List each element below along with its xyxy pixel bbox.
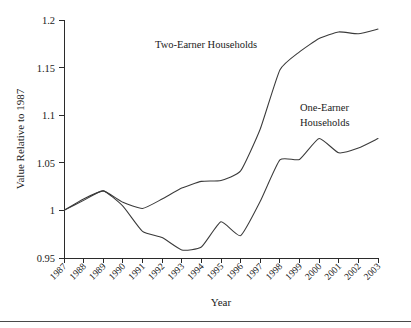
x-tick-label: 1989 bbox=[87, 261, 108, 282]
chart-svg: 0.95 1 1.05 1.1 1.15 1.2 bbox=[0, 0, 411, 328]
x-tick-label: 1995 bbox=[205, 261, 226, 282]
y-tick-label: 1.2 bbox=[42, 15, 55, 26]
x-tick-label: 2001 bbox=[323, 261, 344, 282]
x-tick-label: 1999 bbox=[283, 261, 304, 282]
x-tick-label: 1987 bbox=[48, 261, 69, 282]
x-tick-label: 1992 bbox=[146, 261, 167, 282]
y-tick-marks bbox=[59, 20, 64, 258]
annotation-one-earner-line2: Households bbox=[300, 117, 350, 128]
y-tick-label: 1.15 bbox=[37, 63, 55, 74]
annotation-two-earner: Two-Earner Households bbox=[155, 39, 257, 50]
y-tick-labels: 0.95 1 1.05 1.1 1.15 1.2 bbox=[37, 15, 55, 264]
x-tick-labels: 1987 1988 1989 1990 1991 1992 1993 1994 … bbox=[48, 261, 383, 282]
y-tick-label: 1.1 bbox=[42, 110, 55, 121]
x-tick-label: 1988 bbox=[68, 261, 89, 282]
x-tick-label: 1991 bbox=[126, 261, 147, 282]
y-tick-label: 0.95 bbox=[37, 253, 55, 264]
x-tick-label: 1998 bbox=[264, 261, 285, 282]
x-tick-label: 1990 bbox=[107, 261, 128, 282]
x-tick-label: 1996 bbox=[225, 261, 246, 282]
x-tick-label: 1993 bbox=[166, 261, 187, 282]
x-tick-label: 1997 bbox=[244, 261, 265, 282]
chart-figure: 0.95 1 1.05 1.1 1.15 1.2 bbox=[0, 0, 411, 328]
annotation-one-earner-line1: One-Earner bbox=[300, 102, 349, 113]
x-tick-label: 2000 bbox=[303, 261, 324, 282]
y-tick-label: 1.05 bbox=[37, 158, 55, 169]
x-tick-label: 1994 bbox=[185, 261, 206, 282]
x-axis-title: Year bbox=[211, 296, 232, 308]
x-tick-marks bbox=[64, 258, 378, 263]
bottom-divider bbox=[0, 321, 411, 322]
x-tick-label: 2002 bbox=[342, 261, 363, 282]
y-tick-label: 1 bbox=[50, 205, 55, 216]
y-axis-title: Value Relative to 1987 bbox=[14, 88, 26, 189]
x-tick-label: 2003 bbox=[362, 261, 383, 282]
